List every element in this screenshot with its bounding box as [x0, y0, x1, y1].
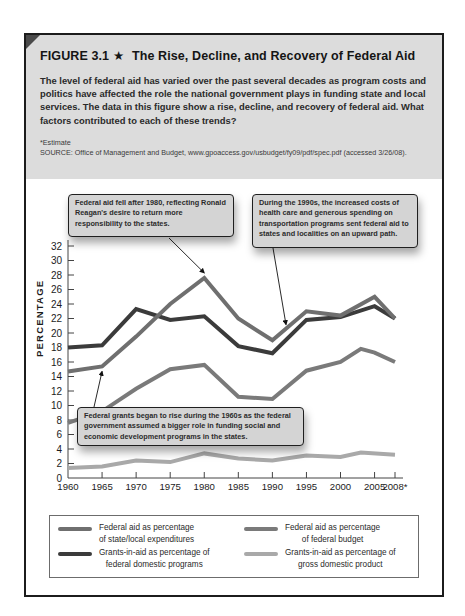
x-tick-label: 1965 — [91, 481, 112, 492]
y-tick-label: 32 — [51, 241, 63, 252]
x-tick-label: 1995 — [296, 481, 317, 492]
x-tick-label: 1970 — [125, 481, 146, 492]
y-tick-label: 24 — [51, 299, 63, 310]
x-tick-label: 2000 — [330, 481, 351, 492]
y-tick-label: 8 — [56, 415, 62, 426]
legend-label-line: Federal aid as percentage — [285, 522, 380, 534]
legend-item-state-local: Federal aid as percentage of state/local… — [58, 522, 194, 545]
y-tick-label: 20 — [51, 328, 63, 339]
callout-text: Federal grants began to rise during the … — [84, 411, 291, 441]
series-line — [68, 453, 395, 468]
legend-label-line: Grants-in-aid as percentage of — [285, 547, 396, 559]
y-tick-label: 14 — [51, 371, 63, 382]
y-tick-label: 28 — [51, 270, 63, 281]
legend-item-federal-budget: Federal aid as percentage of federal bud… — [244, 522, 380, 545]
callout-text: Federal aid fell after 1980, reflecting … — [75, 198, 226, 228]
callout-1990s: During the 1990s, the increased costs of… — [252, 194, 418, 248]
x-tick-label: 1990 — [262, 481, 283, 492]
legend-item-gdp: Grants-in-aid as percentage of gross dom… — [244, 547, 396, 570]
y-tick-label: 16 — [51, 357, 63, 368]
legend-swatch — [244, 527, 278, 531]
y-tick-label: 22 — [51, 313, 63, 324]
y-tick-label: 18 — [51, 342, 63, 353]
callout-1960s: Federal grants began to rise during the … — [77, 407, 304, 446]
legend-swatch — [58, 552, 92, 556]
legend-item-domestic-programs: Grants-in-aid as percentage of federal d… — [58, 547, 210, 570]
callout-arrow — [273, 248, 286, 325]
legend-label-line: federal domestic programs — [99, 559, 210, 571]
y-tick-label: 4 — [56, 444, 62, 455]
legend-label-line: gross domestic product — [285, 559, 396, 571]
legend-label-line: of federal budget — [285, 534, 380, 546]
x-tick-label: 1980 — [194, 481, 215, 492]
x-tick-label: 1960 — [57, 481, 78, 492]
y-tick-label: 12 — [51, 386, 63, 397]
callout-text: During the 1990s, the increased costs of… — [259, 198, 409, 238]
legend-swatch — [244, 552, 278, 556]
x-tick-label: 2008* — [382, 481, 407, 492]
callout-reagan: Federal aid fell after 1980, reflecting … — [68, 194, 234, 237]
legend-label-line: Federal aid as percentage — [99, 522, 194, 534]
y-tick-label: 30 — [51, 255, 63, 266]
y-tick-label: 26 — [51, 284, 63, 295]
chart-legend: Federal aid as percentage of state/local… — [49, 515, 419, 578]
y-tick-label: 10 — [51, 400, 63, 411]
callout-arrow — [169, 238, 204, 273]
y-tick-label: 2 — [56, 458, 62, 469]
x-tick-label: 1975 — [160, 481, 181, 492]
x-tick-label: 1985 — [228, 481, 249, 492]
legend-swatch — [58, 527, 92, 531]
legend-label-line: of state/local expenditures — [99, 534, 194, 546]
legend-label-line: Grants-in-aid as percentage of — [99, 547, 210, 559]
y-tick-label: 6 — [56, 429, 62, 440]
callout-arrow — [94, 371, 102, 407]
